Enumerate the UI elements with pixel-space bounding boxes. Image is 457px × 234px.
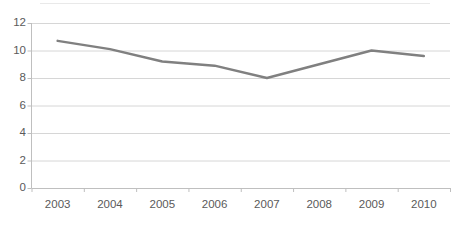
x-tick-label: 2007 [241,198,293,210]
x-tick-label: 2004 [84,198,136,210]
gridline-group [28,24,451,189]
x-tick-label: 2008 [293,198,345,210]
line-chart: 024681012 200320042005200620072008200920… [0,0,457,234]
x-tick-label: 2005 [136,198,188,210]
y-tick-label: 10 [2,45,26,57]
y-tick-label: 0 [2,182,26,194]
x-tick-label: 2010 [398,198,450,210]
y-tick-label: 4 [2,127,26,139]
x-tick-label: 2003 [32,198,84,210]
y-tick-label: 2 [2,155,26,167]
y-tick-label: 6 [2,100,26,112]
x-tick-label: 2006 [188,198,240,210]
data-series-line [58,41,424,78]
x-tick-label: 2009 [345,198,397,210]
y-tick-label: 12 [2,17,26,29]
y-tick-label: 8 [2,72,26,84]
